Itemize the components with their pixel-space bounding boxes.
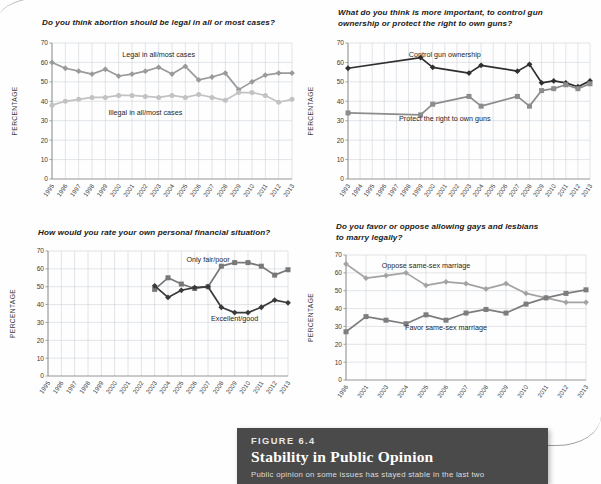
svg-text:50: 50 [37, 283, 45, 290]
svg-text:2005: 2005 [171, 379, 185, 395]
chart-panel-guns: What do you think is more important, to … [302, 8, 599, 223]
svg-text:1998: 1998 [398, 182, 412, 198]
svg-text:2009: 2009 [496, 383, 510, 399]
svg-text:40: 40 [41, 97, 49, 104]
svg-text:30: 30 [335, 323, 343, 330]
svg-text:2008: 2008 [519, 182, 533, 198]
svg-text:2013: 2013 [576, 383, 590, 399]
svg-text:2000: 2000 [422, 182, 436, 198]
svg-text:2000: 2000 [108, 182, 122, 198]
svg-text:2005: 2005 [416, 383, 430, 399]
svg-text:1999: 1999 [410, 182, 424, 198]
svg-text:2008: 2008 [211, 379, 225, 395]
svg-text:2001: 2001 [118, 379, 132, 395]
svg-text:2004: 2004 [158, 379, 172, 395]
svg-text:40: 40 [37, 300, 45, 307]
figure-chart-grid: Do you think abortion should be legal in… [0, 0, 601, 420]
chart-title-same-sex-marriage: Do you favor or oppose allowing gays and… [336, 222, 546, 243]
svg-text:2003: 2003 [376, 383, 390, 399]
svg-text:2002: 2002 [447, 182, 461, 198]
svg-text:Oppose same-sex marriage: Oppose same-sex marriage [382, 261, 471, 270]
svg-text:PERCENTAGE: PERCENTAGE [307, 86, 314, 135]
svg-text:1994: 1994 [350, 182, 364, 198]
svg-text:2002: 2002 [135, 182, 149, 198]
svg-text:1995: 1995 [362, 182, 376, 198]
chart-panel-same-sex-marriage: Do you favor or oppose allowing gays and… [302, 222, 599, 416]
svg-text:2009: 2009 [531, 182, 545, 198]
svg-text:50: 50 [337, 78, 345, 85]
svg-text:PERCENTAGE: PERCENTAGE [11, 86, 18, 135]
svg-text:2011: 2011 [255, 182, 269, 197]
plot-finances: 0102030405060701995199619971998199920002… [4, 239, 300, 414]
svg-text:Favor same-sex marriage: Favor same-sex marriage [405, 323, 487, 332]
plot-abortion: 0102030405060701995199619971998199920002… [4, 29, 300, 219]
svg-text:2008: 2008 [215, 182, 229, 198]
svg-text:2006: 2006 [495, 182, 509, 198]
svg-text:2011: 2011 [251, 379, 265, 394]
svg-text:2012: 2012 [568, 182, 582, 198]
svg-text:60: 60 [337, 59, 345, 66]
svg-text:0: 0 [40, 372, 44, 379]
svg-text:1996: 1996 [51, 379, 65, 395]
svg-text:10: 10 [335, 359, 343, 366]
svg-text:2004: 2004 [471, 182, 485, 198]
svg-text:1998: 1998 [82, 182, 96, 198]
scanned-page: Do you think abortion should be legal in… [0, 0, 601, 484]
svg-text:PERCENTAGE: PERCENTAGE [307, 293, 314, 342]
svg-text:2011: 2011 [536, 383, 550, 398]
svg-text:Legal in all/most cases: Legal in all/most cases [122, 49, 195, 58]
svg-text:10: 10 [41, 155, 49, 162]
plot-same-sex-marriage: 0102030405060701996200120032004200520062… [302, 243, 599, 418]
svg-text:2003: 2003 [148, 182, 162, 198]
svg-text:2012: 2012 [268, 182, 282, 198]
svg-text:70: 70 [37, 247, 45, 254]
svg-text:20: 20 [41, 136, 49, 143]
svg-text:2003: 2003 [459, 182, 473, 198]
svg-text:2004: 2004 [162, 182, 176, 198]
svg-text:50: 50 [41, 78, 49, 85]
svg-text:2008: 2008 [476, 383, 490, 399]
svg-text:40: 40 [337, 98, 345, 105]
svg-text:2013: 2013 [282, 182, 296, 198]
chart-panel-finances: How would you rate your own personal fin… [4, 228, 300, 416]
svg-text:10: 10 [337, 156, 345, 163]
svg-text:70: 70 [335, 251, 343, 258]
chart-title-finances: How would you rate your own personal fin… [38, 228, 300, 239]
svg-text:2010: 2010 [242, 182, 256, 198]
svg-text:10: 10 [37, 354, 45, 361]
svg-text:0: 0 [340, 175, 344, 182]
svg-text:70: 70 [41, 39, 49, 46]
svg-text:20: 20 [335, 341, 343, 348]
svg-text:2006: 2006 [436, 383, 450, 399]
svg-text:1999: 1999 [95, 182, 109, 198]
svg-text:60: 60 [37, 265, 45, 272]
svg-text:Control gun ownership: Control gun ownership [409, 50, 481, 59]
svg-text:2003: 2003 [144, 379, 158, 395]
svg-text:2004: 2004 [396, 383, 410, 399]
svg-text:40: 40 [335, 305, 343, 312]
chart-panel-abortion: Do you think abortion should be legal in… [4, 18, 300, 223]
svg-text:50: 50 [335, 287, 343, 294]
svg-text:2006: 2006 [188, 182, 202, 198]
svg-text:PERCENTAGE: PERCENTAGE [9, 288, 16, 337]
svg-text:Protect the right to own guns: Protect the right to own guns [399, 114, 491, 123]
chart-title-abortion: Do you think abortion should be legal in… [42, 18, 300, 29]
svg-text:2001: 2001 [434, 182, 448, 198]
svg-text:0: 0 [338, 376, 342, 383]
figure-caption-box: FIGURE 6.4 Stability in Public Opinion P… [237, 428, 548, 484]
svg-text:2010: 2010 [516, 383, 530, 399]
figure-title: Stability in Public Opinion [251, 448, 548, 466]
chart-title-guns: What do you think is more important, to … [338, 8, 568, 29]
svg-text:1997: 1997 [64, 379, 78, 395]
svg-text:1996: 1996 [374, 182, 388, 198]
svg-text:1998: 1998 [78, 379, 92, 395]
svg-text:2005: 2005 [175, 182, 189, 198]
svg-text:2007: 2007 [507, 182, 521, 198]
svg-text:2006: 2006 [184, 379, 198, 395]
svg-text:2000: 2000 [104, 379, 118, 395]
svg-text:2012: 2012 [264, 379, 278, 395]
svg-text:0: 0 [44, 175, 48, 182]
svg-text:1999: 1999 [91, 379, 105, 395]
svg-text:20: 20 [37, 336, 45, 343]
svg-text:1997: 1997 [68, 182, 82, 198]
